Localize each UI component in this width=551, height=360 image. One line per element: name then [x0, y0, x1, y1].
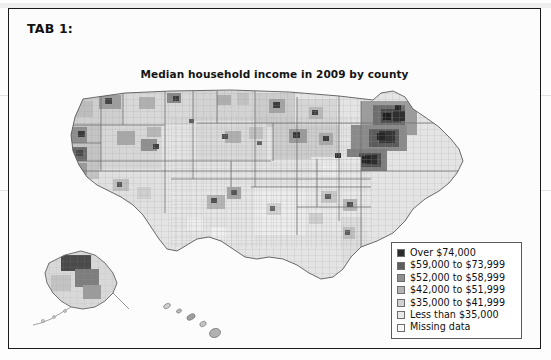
- hawaii-inset: [163, 302, 222, 339]
- legend-item: $35,000 to $41,999: [397, 297, 516, 309]
- legend-item: Missing data: [397, 321, 516, 333]
- legend-swatch: [397, 249, 405, 257]
- legend-item: $52,000 to $58,999: [397, 272, 516, 284]
- legend-item: $42,000 to $51,999: [397, 284, 516, 296]
- legend-swatch: [397, 299, 405, 307]
- legend-label: $35,000 to $41,999: [410, 297, 505, 309]
- legend-label: Less than $35,000: [410, 309, 499, 321]
- legend-item: Less than $35,000: [397, 309, 516, 321]
- map-title: Median household income in 2009 by count…: [9, 68, 540, 80]
- tab-panel-frame: TAB 1: Median household income in 2009 b…: [8, 8, 541, 349]
- legend-label: $59,000 to $73,999: [410, 259, 505, 271]
- legend-item: Over $74,000: [397, 247, 516, 259]
- legend-swatch: [397, 262, 405, 270]
- alaska-inset: [33, 247, 129, 325]
- tab-label: TAB 1:: [27, 21, 73, 36]
- legend-swatch: [397, 274, 405, 282]
- legend-swatch: [397, 286, 405, 294]
- legend-item: $59,000 to $73,999: [397, 259, 516, 271]
- legend-swatch: [397, 324, 405, 332]
- screenshot-page: TAB 1: Median household income in 2009 b…: [0, 0, 551, 360]
- legend-label: $52,000 to $58,999: [410, 272, 505, 284]
- legend-label: Missing data: [410, 321, 470, 333]
- legend-swatch: [397, 311, 405, 319]
- legend-label: Over $74,000: [410, 247, 476, 259]
- map-legend: Over $74,000 $59,000 to $73,999 $52,000 …: [391, 242, 522, 339]
- legend-label: $42,000 to $51,999: [410, 284, 505, 296]
